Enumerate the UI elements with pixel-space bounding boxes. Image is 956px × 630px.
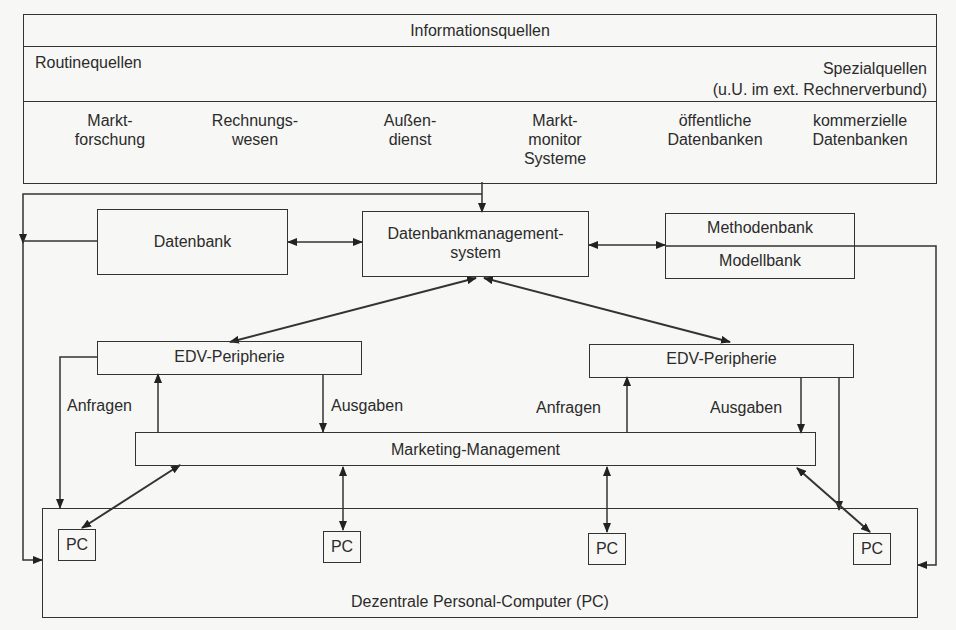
pc-box: PC [323,531,361,563]
source-item: Markt-monitorSysteme [505,111,605,168]
edv-peripheral-right-label: EDV-Peripherie [589,349,854,368]
source-item: Markt-forschung [55,111,165,149]
requests-left-label: Anfragen [67,396,132,415]
special-sources-label: Spezialquellen [600,59,927,78]
outputs-left-label: Ausgaben [331,396,403,415]
source-item: Außen-dienst [360,111,460,149]
information-system-diagram: Informationsquellen Routinequellen Spezi… [0,0,956,630]
sources-title: Informationsquellen [23,21,937,40]
outputs-right-label: Ausgaben [710,398,782,417]
pc-box: PC [58,529,96,561]
source-item: Rechnungs-wesen [195,111,315,149]
routine-sources-label: Routinequellen [35,53,142,72]
requests-right-label: Anfragen [536,398,601,417]
model-bank-label: Modellbank [665,251,855,270]
edv-peripheral-left-label: EDV-Peripherie [97,347,362,366]
divider [23,46,937,47]
special-sources-note: (u.U. im ext. Rechnerverbund) [600,80,927,99]
divider [23,101,937,102]
dbms-label: Datenbankmanagement-system [362,224,589,262]
marketing-management-label: Marketing-Management [135,440,816,459]
database-label: Datenbank [97,232,288,251]
decentral-pc-label: Dezentrale Personal-Computer (PC) [42,592,918,611]
method-bank-label: Methodenbank [665,218,855,237]
source-item: öffentlicheDatenbanken [650,111,780,149]
pc-box: PC [588,533,626,565]
source-item: kommerzielleDatenbanken [795,111,925,149]
pc-box: PC [853,533,891,565]
